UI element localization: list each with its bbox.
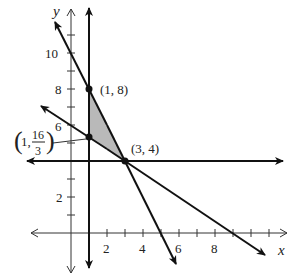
frac-denominator: 3: [35, 144, 41, 158]
y-tick-label-2: 2: [56, 190, 63, 205]
y-tick-label-6: 6: [55, 119, 62, 134]
point-label-1-8: (1, 8): [100, 82, 128, 97]
label-leader: [53, 139, 86, 143]
x-tick-label-4: 4: [139, 241, 146, 256]
vertex-3-4: [122, 158, 129, 165]
x-tick-label-6: 6: [175, 241, 182, 256]
y-tick-label-8: 8: [55, 82, 62, 97]
x-tick-label-8: 8: [211, 241, 218, 256]
paren-right: ): [46, 126, 55, 155]
line-steep-up: [55, 22, 107, 125]
x-axis-label: x: [277, 242, 285, 258]
vertex-1-16-3: [86, 134, 93, 141]
vertex-1-8: [86, 86, 93, 93]
point-label-1-16-3: ( 1, 16 3 ): [14, 126, 55, 158]
graph: y x 2 4 6 8 2 6 8 10 (1, 8) (3, 4) ( 1, …: [0, 0, 292, 279]
point-label-3-4: (3, 4): [131, 141, 159, 156]
frac-numerator: 16: [32, 128, 44, 142]
line-shallow-down: [107, 149, 265, 255]
y-tick-label-10: 10: [45, 46, 58, 61]
y-axis-label: y: [51, 3, 60, 19]
x-tick-label-2: 2: [103, 241, 110, 256]
frac-prefix: 1,: [21, 134, 31, 149]
